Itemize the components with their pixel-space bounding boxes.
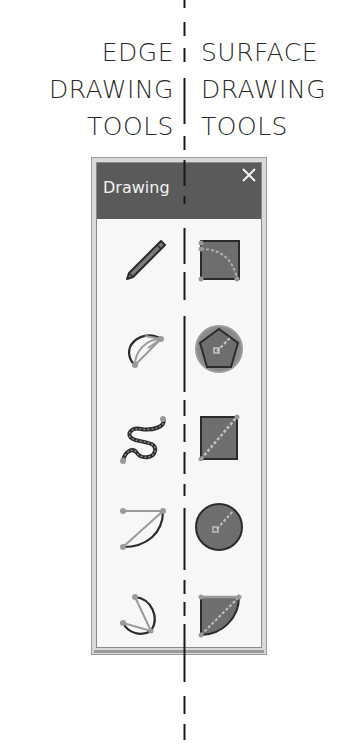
edge-drawing-tools-label: EDGE DRAWING TOOLS	[49, 34, 174, 145]
tool-three-point-arc[interactable]	[117, 591, 165, 639]
surface-drawing-tools-label: SURFACE DRAWING TOOLS	[201, 34, 326, 145]
tool-rectangle[interactable]	[195, 413, 243, 461]
tool-two-point-arc[interactable]	[117, 503, 165, 551]
tool-freehand-line[interactable]	[121, 235, 169, 283]
wavy-curve-icon	[115, 413, 169, 467]
panel-bottom-edge	[94, 650, 264, 653]
panel-titlebar[interactable]: Drawing	[97, 163, 261, 219]
label-line: DRAWING	[201, 71, 326, 108]
tool-circle[interactable]	[193, 501, 241, 549]
tool-pie[interactable]	[195, 591, 243, 639]
label-line: SURFACE	[201, 34, 326, 71]
drawing-panel-body: Drawing	[96, 162, 262, 648]
label-line: EDGE	[49, 34, 174, 71]
tool-rectangle-surface[interactable]	[195, 235, 243, 283]
filled-polygon-icon	[193, 323, 245, 375]
drawing-panel: Drawing	[91, 157, 267, 655]
arc-icon	[121, 323, 169, 371]
label-line: TOOLS	[49, 108, 174, 145]
close-icon	[239, 165, 259, 185]
divider-line	[183, 0, 186, 754]
filled-pie-icon	[195, 591, 245, 641]
close-button[interactable]	[239, 165, 259, 185]
label-line: TOOLS	[201, 108, 326, 145]
tool-polygon-surface[interactable]	[193, 323, 241, 371]
label-line: DRAWING	[49, 71, 174, 108]
panel-title: Drawing	[103, 178, 170, 197]
pencil-icon	[121, 235, 169, 283]
three-point-arc-icon	[117, 591, 167, 641]
tool-arc[interactable]	[121, 323, 169, 371]
filled-rounded-rectangle-icon	[195, 235, 243, 283]
filled-rectangle-icon	[195, 413, 243, 461]
two-point-arc-icon	[117, 503, 167, 553]
filled-circle-icon	[193, 501, 245, 553]
tool-curve[interactable]	[115, 413, 163, 461]
